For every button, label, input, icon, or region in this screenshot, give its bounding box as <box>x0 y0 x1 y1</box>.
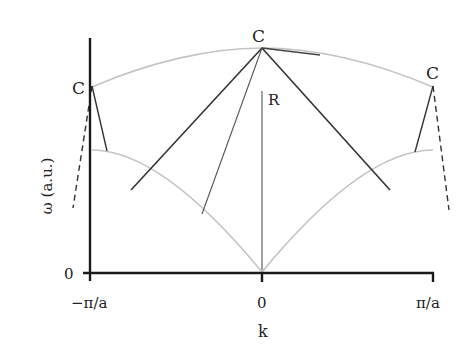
x-axis-label: k <box>258 322 268 341</box>
x-tick-neg-pi-label: −π/a <box>71 294 107 312</box>
top-c-thin-line <box>202 48 262 214</box>
x-tick-zero-label: 0 <box>257 294 267 312</box>
y-axis-label: ω (a.u.) <box>38 158 56 215</box>
label-r: R <box>268 91 280 109</box>
y-tick-zero-label: 0 <box>64 265 74 283</box>
top-c-right-line <box>262 48 390 190</box>
top-c-left-line <box>131 48 262 190</box>
label-c-top: C <box>252 26 265 46</box>
label-c-left: C <box>72 78 85 98</box>
left-c-line <box>92 86 107 151</box>
right-c-line <box>415 86 433 152</box>
x-tick-pi-label: π/a <box>416 294 440 312</box>
upper-branch-curve <box>92 48 433 87</box>
label-c-right: C <box>426 63 439 83</box>
right-c-dashed-line <box>433 86 449 210</box>
dispersion-diagram: C C C R 0 −π/a 0 π/a k ω (a.u.) <box>0 0 475 363</box>
